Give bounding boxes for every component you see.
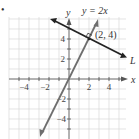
x-axis-label: x — [130, 74, 136, 85]
y-tick-label: 4 — [61, 34, 66, 44]
line-label-y-2x: y = 2x — [81, 5, 108, 16]
y-tick-label: −4 — [56, 114, 66, 124]
x-tick-label: −2 — [40, 82, 50, 92]
x-tick-label: 4 — [107, 82, 112, 92]
coordinate-plane: • — [0, 0, 139, 139]
bullet-marker: • — [1, 4, 5, 15]
point-label: (2, 4) — [95, 29, 117, 41]
y-axis-label: y — [65, 7, 71, 18]
line-y-equals-2x: y = 2x — [40, 5, 109, 137]
line-label-L: L — [129, 55, 136, 66]
y-tick-label: 2 — [61, 54, 66, 64]
x-tick-label: −4 — [19, 82, 29, 92]
x-tick-label: 2 — [87, 82, 92, 92]
intersection-point — [88, 38, 91, 41]
